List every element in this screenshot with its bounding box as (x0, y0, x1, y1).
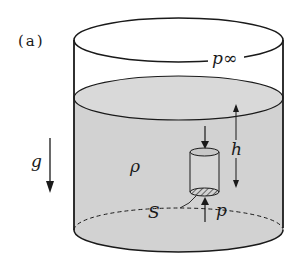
pressure-top-label: p∞ (212, 48, 237, 68)
column-bottom-area (190, 188, 219, 196)
pressure-bottom-label: p (216, 200, 227, 220)
hydrostatic-diagram: (a) g ρ h S p∞ p (0, 0, 299, 271)
height-label: h (231, 139, 242, 159)
panel-label: (a) (18, 32, 45, 50)
gravity-arrowhead (46, 181, 54, 193)
column-top (190, 148, 219, 156)
liquid-body (74, 98, 283, 252)
liquid-surface (74, 76, 283, 120)
container-top-rim (74, 18, 283, 62)
gravity-label: g (31, 151, 42, 171)
density-label: ρ (129, 156, 140, 176)
fluid-column (190, 152, 219, 192)
area-label: S (148, 202, 160, 222)
